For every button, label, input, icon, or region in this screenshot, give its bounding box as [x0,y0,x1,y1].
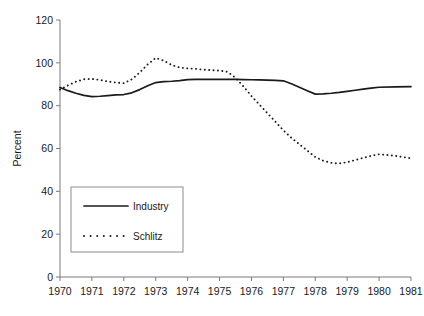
x-tick-label: 1979 [336,285,360,297]
y-tick-label: 120 [35,14,53,26]
x-tick-label: 1973 [144,285,168,297]
x-tick-label: 1978 [304,285,328,297]
y-tick-label: 20 [41,228,53,240]
x-tick-label: 1980 [367,285,391,297]
x-tick-label: 1977 [272,285,296,297]
y-tick-label: 40 [41,185,53,197]
x-tick-label: 1971 [80,285,104,297]
legend-label-industry: Industry [133,201,169,212]
x-tick-label: 1972 [112,285,136,297]
y-axis-title: Percent [11,130,23,166]
series-line-industry [60,79,411,96]
legend-label-schlitz: Schlitz [133,231,162,242]
line-chart: 0204060801001201970197119721973197419751… [0,0,424,316]
y-tick-label: 60 [41,142,53,154]
y-tick-label: 0 [47,271,53,283]
x-tick-label: 1970 [48,285,72,297]
x-tick-label: 1981 [399,285,423,297]
x-tick-label: 1976 [240,285,264,297]
series-line-schlitz [60,58,411,164]
x-tick-label: 1975 [208,285,232,297]
y-tick-label: 80 [41,99,53,111]
chart-canvas: 0204060801001201970197119721973197419751… [0,0,424,316]
y-tick-label: 100 [35,57,53,69]
legend-box [71,187,183,252]
x-tick-label: 1974 [176,285,200,297]
